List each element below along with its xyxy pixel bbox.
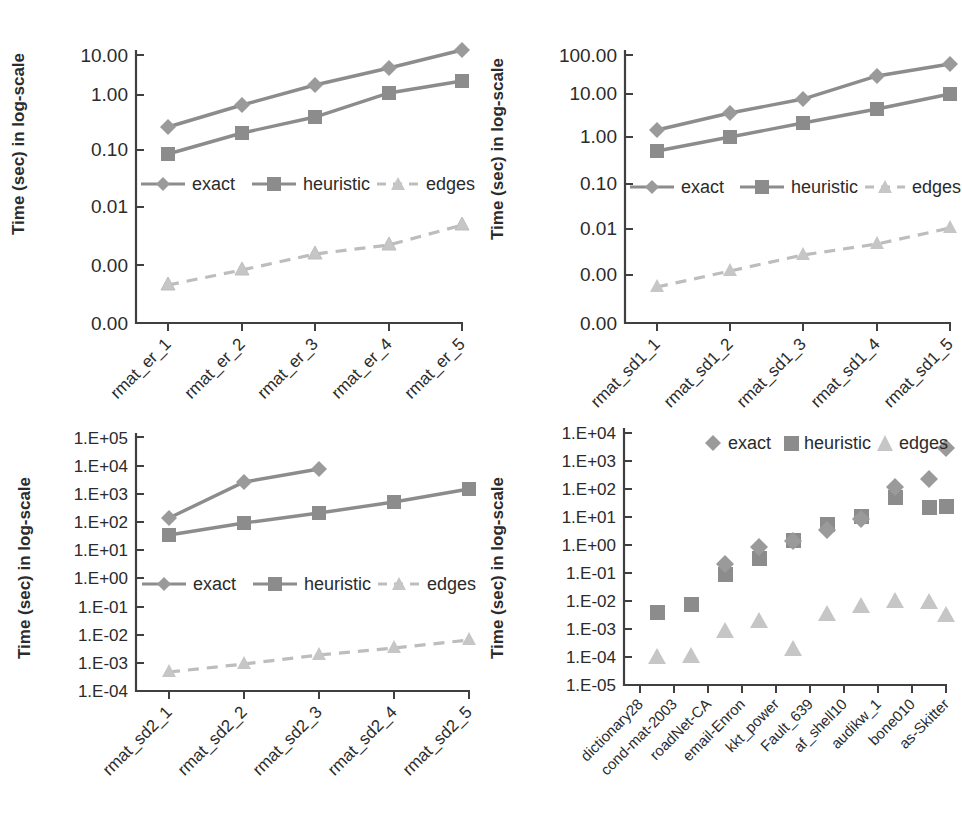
x-tick-label: rmat_er_3 — [254, 334, 322, 402]
y-tick-label: 100.00 — [559, 45, 617, 66]
y-tick-label: 0.00 — [91, 255, 128, 276]
y-axis-label: Time (sec) in log-scale — [488, 58, 507, 240]
x-tick-label: rmat_sd1_3 — [733, 334, 810, 409]
y-tick-label: 1.E+01 — [562, 508, 616, 527]
y-tick-label: 1.E-02 — [566, 592, 616, 611]
legend-item-edges[interactable]: edges — [377, 174, 475, 194]
x-tick-marks — [640, 685, 946, 693]
chart-top-right-svg: Time (sec) in log-scale 100.00 10.00 1.0… — [481, 0, 962, 409]
legend-label-exact: exact — [192, 174, 235, 194]
legend: exact heuristic edges — [141, 174, 475, 194]
x-tick-labels: rmat_er_1 rmat_er_2 rmat_er_3 rmat_er_4 … — [107, 334, 469, 402]
legend-label-edges: edges — [912, 177, 961, 197]
legend-item-edges[interactable]: edges — [865, 177, 961, 197]
y-tick-label: 1.E+01 — [74, 541, 128, 560]
y-tick-label: 10.00 — [80, 45, 128, 66]
legend-item-exact[interactable]: exact — [630, 177, 724, 197]
y-tick-label: 1.E+00 — [74, 569, 128, 588]
chart-bottom-right-svg: Time (sec) in log-scale 1.E+04 1.E+03 1.… — [481, 409, 962, 818]
x-tick-labels: rmat_sd2_1 rmat_sd2_2 rmat_sd2_3 rmat_sd… — [99, 702, 476, 779]
y-tick-label: 1.00 — [91, 84, 128, 105]
x-tick-labels: rmat_sd1_1 rmat_sd1_2 rmat_sd1_3 rmat_sd… — [587, 334, 957, 409]
chart-panel-top-left: Time (sec) in log-scale 10.00 1.00 0.10 … — [0, 0, 481, 409]
legend-item-heuristic[interactable]: heuristic — [784, 433, 871, 453]
y-tick-label: 1.E-02 — [78, 626, 128, 645]
y-tick-label: 1.E-05 — [566, 676, 616, 695]
x-tick-label: rmat_sd2_5 — [399, 702, 476, 779]
x-tick-label: rmat_sd1_1 — [587, 334, 664, 409]
legend-label-edges: edges — [426, 174, 475, 194]
series-markers-edges — [650, 220, 957, 292]
x-tick-label: rmat_sd2_1 — [99, 702, 176, 779]
legend-item-heuristic[interactable]: heuristic — [252, 174, 370, 194]
y-tick-label: 1.E-01 — [78, 598, 128, 617]
y-tick-label: 1.E-03 — [78, 654, 128, 673]
series-markers-heuristic — [162, 482, 476, 542]
y-tick-label: 1.E-04 — [78, 682, 128, 701]
y-tick-label: 0.00 — [91, 313, 128, 334]
y-tick-label: 0.00 — [580, 313, 617, 334]
figure-grid: Time (sec) in log-scale 10.00 1.00 0.10 … — [0, 0, 962, 818]
x-tick-label: rmat_er_2 — [181, 334, 249, 402]
y-tick-label: 0.00 — [580, 264, 617, 285]
y-tick-label: 1.E+02 — [74, 513, 128, 532]
y-axis-label: Time (sec) in log-scale — [9, 53, 28, 235]
x-tick-marks — [168, 323, 462, 331]
legend-item-exact[interactable]: exact — [142, 574, 236, 594]
legend-label-heuristic: heuristic — [804, 433, 871, 453]
x-tick-label: rmat_sd2_3 — [249, 702, 326, 779]
legend-item-edges[interactable]: edges — [877, 433, 948, 453]
y-tick-label: 1.E+02 — [562, 480, 616, 499]
legend: exact heuristic edges — [142, 574, 476, 594]
x-tick-labels: dictionary28 cond-mat-2003 roadNet-CA em… — [577, 695, 952, 778]
x-tick-label: rmat_er_4 — [328, 334, 396, 402]
legend: exact heuristic edges — [705, 433, 948, 453]
y-axis-label: Time (sec) in log-scale — [15, 477, 34, 659]
legend-label-heuristic: heuristic — [303, 174, 370, 194]
x-tick-marks — [169, 691, 469, 699]
chart-top-left-svg: Time (sec) in log-scale 10.00 1.00 0.10 … — [0, 0, 481, 409]
legend-item-exact[interactable]: exact — [141, 174, 235, 194]
y-axis-label: Time (sec) in log-scale — [488, 477, 507, 659]
chart-panel-top-right: Time (sec) in log-scale 100.00 10.00 1.0… — [481, 0, 962, 409]
x-tick-marks — [657, 323, 950, 331]
legend-item-heuristic[interactable]: heuristic — [740, 177, 858, 197]
y-tick-label: 1.E+03 — [562, 452, 616, 471]
legend-label-exact: exact — [728, 433, 771, 453]
x-tick-label: rmat_sd1_4 — [807, 334, 884, 409]
legend-item-exact[interactable]: exact — [705, 433, 771, 453]
chart-bottom-left-svg: Time (sec) in log-scale 1.E+05 1.E+04 1.… — [0, 409, 481, 818]
y-tick-label: 1.E+05 — [74, 429, 128, 448]
y-tick-label: 0.01 — [580, 218, 617, 239]
legend-item-edges[interactable]: edges — [378, 574, 476, 594]
y-tick-label: 10.00 — [569, 83, 617, 104]
legend-label-exact: exact — [193, 574, 236, 594]
legend-label-edges: edges — [427, 574, 476, 594]
legend: exact heuristic edges — [630, 177, 961, 197]
y-tick-label: 1.E+04 — [562, 424, 616, 443]
y-tick-label: 0.01 — [91, 196, 128, 217]
x-tick-label: rmat_sd1_5 — [880, 334, 957, 409]
x-tick-label: rmat_er_1 — [107, 334, 175, 402]
series-markers-edges — [162, 632, 476, 677]
y-tick-label: 1.E+04 — [74, 457, 128, 476]
y-tick-label: 0.10 — [580, 173, 617, 194]
y-tick-label: 0.10 — [91, 139, 128, 160]
axis-lines — [624, 428, 947, 685]
y-tick-label: 1.00 — [580, 126, 617, 147]
legend-label-heuristic: heuristic — [304, 574, 371, 594]
series-markers-heuristic — [650, 490, 954, 620]
y-tick-marks — [625, 55, 633, 275]
chart-panel-bottom-left: Time (sec) in log-scale 1.E+05 1.E+04 1.… — [0, 409, 481, 818]
y-tick-label: 1.E+03 — [74, 485, 128, 504]
y-tick-label: 1.E-01 — [566, 564, 616, 583]
series-markers-edges — [161, 217, 469, 290]
series-markers-exact — [716, 439, 955, 573]
legend-label-exact: exact — [681, 177, 724, 197]
x-tick-label: rmat_er_5 — [401, 334, 469, 402]
legend-item-heuristic[interactable]: heuristic — [253, 574, 371, 594]
x-tick-label: rmat_sd2_2 — [174, 702, 251, 779]
y-tick-label: 1.E-04 — [566, 648, 616, 667]
x-tick-label: rmat_sd2_4 — [324, 702, 401, 779]
y-tick-marks — [136, 55, 144, 265]
